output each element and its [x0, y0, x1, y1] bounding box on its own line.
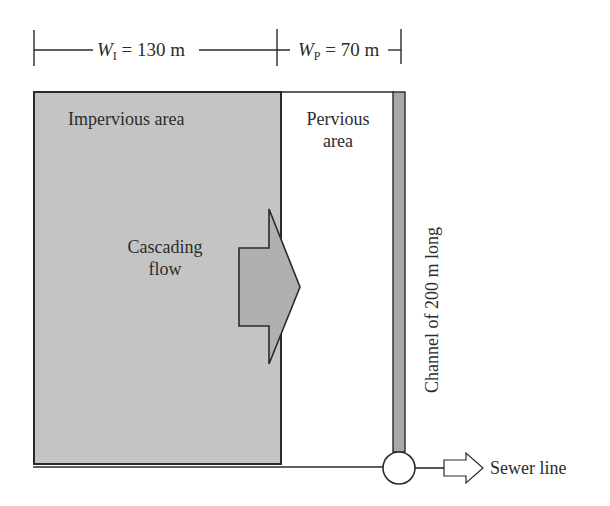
sewer-line-label: Sewer line — [490, 459, 566, 477]
cascading-flow-label: Cascading flow — [110, 238, 220, 278]
outlet-junction-circle — [383, 452, 415, 484]
impervious-width-label: WI = 130 m — [97, 40, 185, 62]
impervious-area-label: Impervious area — [68, 110, 184, 128]
impervious-width-value: = 130 m — [122, 39, 186, 60]
channel — [393, 92, 405, 452]
cascading-flow-label-line2: flow — [110, 260, 220, 278]
impervious-width-symbol: W — [97, 39, 113, 60]
pervious-width-symbol: W — [298, 39, 314, 60]
impervious-width-subscript: I — [113, 49, 117, 63]
pervious-area-label-line2: area — [288, 132, 388, 150]
diagram-canvas — [0, 0, 610, 506]
pervious-area-label-line1: Pervious — [288, 110, 388, 128]
cascading-flow-label-line1: Cascading — [110, 238, 220, 256]
pervious-width-value: = 70 m — [325, 39, 379, 60]
pervious-area-label: Pervious area — [288, 110, 388, 150]
pervious-width-label: WP = 70 m — [298, 40, 379, 62]
pervious-width-subscript: P — [314, 49, 321, 63]
channel-label: Channel of 200 m long — [423, 227, 441, 393]
sewer-outflow-arrow-icon — [444, 453, 483, 483]
